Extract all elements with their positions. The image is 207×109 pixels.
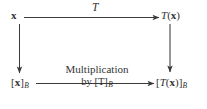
close-paren: ) <box>176 9 180 21</box>
edge-label-multiplication: Multiplication by [T]B <box>55 64 139 89</box>
node-vector-x-symbol: x <box>11 9 17 21</box>
edge-label-transformation-text: T <box>92 1 98 13</box>
commutative-diagram: x T(x) [x]B [T(x)]B T Multiplication by … <box>0 0 207 109</box>
node-coordinate-vector-transformed: [T(x)]B <box>156 77 187 90</box>
node-vector-x: x <box>11 10 17 21</box>
basis-subscript: B <box>24 81 29 90</box>
basis-subscript: B <box>108 80 113 89</box>
edge-label-multiplication-line2: by [T]B <box>55 76 139 89</box>
node-transformed-vector: T(x) <box>161 10 180 21</box>
edge-label-multiplication-line1: Multiplication <box>55 64 139 76</box>
edge-label-transformation: T <box>92 1 98 13</box>
node-coordinate-vector-x: [x]B <box>11 77 29 90</box>
basis-subscript: B <box>182 81 187 90</box>
by-bracket-prefix: by [ <box>81 76 98 87</box>
